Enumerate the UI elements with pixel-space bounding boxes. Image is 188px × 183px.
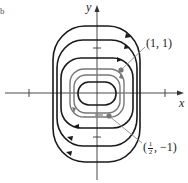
fraction-numerator: 1 (149, 141, 153, 148)
pointer-line-1-1 (121, 47, 145, 70)
point-label-prefix: ( (143, 140, 147, 154)
x-axis-label: x (179, 97, 184, 109)
y-axis-arrow-icon (95, 5, 100, 12)
point-label-suffix: , −1) (154, 140, 177, 154)
panel-label: b (0, 7, 5, 16)
y-axis-label: y (86, 1, 91, 13)
point-label-1-1: (1, 1) (146, 37, 172, 49)
direction-arrows (66, 33, 131, 156)
fraction: 12 (148, 141, 153, 156)
x-axis-arrow-icon (177, 91, 184, 96)
point-label-half-neg1: (12, −1) (143, 141, 177, 156)
point-1-1 (118, 67, 123, 72)
fraction-denominator: 2 (149, 149, 153, 156)
point-half-neg1 (106, 113, 111, 118)
